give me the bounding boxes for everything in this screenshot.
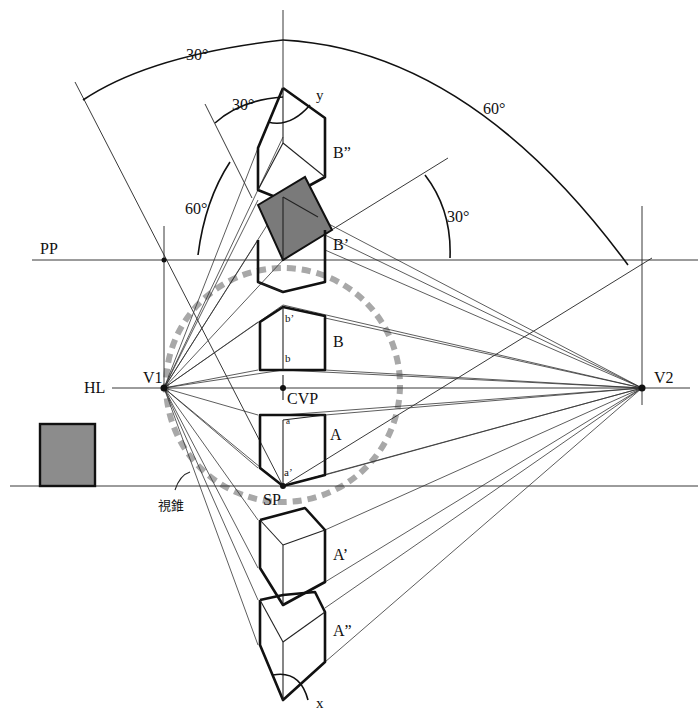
cube-b-double [258, 88, 325, 200]
label-cvp: CVP [287, 390, 318, 407]
label-a-prime: A’ [333, 546, 348, 563]
label-angle-30-top: 30° [186, 46, 208, 63]
cone-pointer-arc [175, 472, 190, 490]
label-angle-60-top: 60° [483, 100, 505, 117]
label-angle-30-inner: 30° [232, 96, 254, 113]
arc-30-top [83, 40, 283, 100]
label-sp: SP [263, 491, 281, 508]
label-b: B [333, 333, 344, 350]
label-cone-of-vision: 視錐 [158, 498, 184, 513]
elevation-square [40, 424, 95, 486]
label-b-double: B” [333, 144, 351, 161]
label-hl: HL [84, 379, 105, 396]
label-a-small: a [286, 416, 290, 426]
perspective-diagram: PP HL V1 V2 CVP SP B” B’ B A A’ A” b’ b … [0, 0, 698, 722]
v2-point [639, 385, 646, 392]
pp-v1-point [162, 258, 167, 263]
label-a: A [330, 426, 342, 443]
label-a-double: A” [333, 622, 352, 639]
cube-a-prime [260, 508, 325, 605]
label-v1: V1 [143, 369, 163, 386]
label-axis-y: y [316, 87, 324, 103]
sight-line-60-right [283, 258, 652, 486]
cube-a-double [260, 592, 325, 700]
label-axis-x: x [316, 695, 324, 711]
label-b-small: b [285, 352, 291, 364]
label-b-prime: B’ [333, 236, 349, 253]
label-v2: V2 [654, 369, 674, 386]
label-a-prime-small: a’ [284, 466, 293, 478]
sp-point [280, 483, 286, 489]
rotated-plan-square [258, 177, 332, 260]
label-angle-60-inner: 60° [185, 200, 207, 217]
cvp-point [280, 385, 286, 391]
label-angle-30-right: 30° [447, 208, 469, 225]
label-b-prime-small: b’ [285, 312, 294, 324]
label-pp: PP [40, 240, 58, 257]
sight-line-30-left [75, 82, 283, 486]
sight-line-30-inner [205, 104, 252, 198]
